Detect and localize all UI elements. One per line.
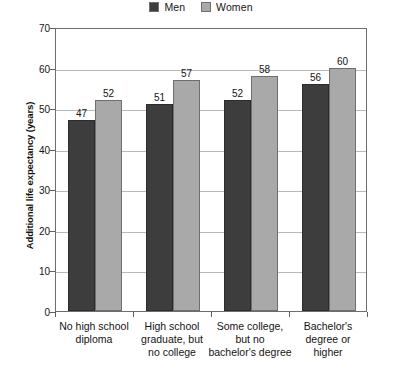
x-category-label: High schoolgraduate, butno college <box>127 320 217 359</box>
bar-value-label: 57 <box>167 69 207 79</box>
x-category-line: degree or <box>283 333 373 346</box>
x-tick-mark <box>367 312 368 317</box>
bar-men-2 <box>224 100 251 311</box>
grouped-bar-chart: Men Women Additional life expectancy (ye… <box>0 0 402 371</box>
legend-entry-men: Men <box>149 2 185 13</box>
y-tick-label: 20 <box>20 225 50 236</box>
legend-swatch-women <box>201 2 211 12</box>
legend-label-men: Men <box>164 2 185 13</box>
x-tick-mark <box>289 312 290 317</box>
x-category-line: graduate, but <box>127 333 217 346</box>
gridline <box>56 70 366 71</box>
x-tick-mark <box>211 312 212 317</box>
x-category-line: but no <box>205 333 295 346</box>
x-category-line: Some college, <box>205 320 295 333</box>
y-tick-label: 30 <box>20 185 50 196</box>
bar-value-label: 60 <box>323 57 363 67</box>
y-tick-label: 40 <box>20 144 50 155</box>
bar-men-3 <box>302 84 329 311</box>
y-tick-label: 10 <box>20 266 50 277</box>
legend-label-women: Women <box>216 2 253 13</box>
bar-women-0 <box>95 100 122 311</box>
x-category-line: No high school <box>49 320 139 333</box>
bar-men-0 <box>68 120 95 311</box>
x-category-line: Bachelor's <box>283 320 373 333</box>
y-tick-label: 0 <box>20 307 50 318</box>
y-axis-title: Additional life expectancy (years) <box>24 51 35 301</box>
x-category-line: diploma <box>49 333 139 346</box>
x-category-line: High school <box>127 320 217 333</box>
bar-value-label: 58 <box>245 65 285 75</box>
x-category-label: Some college,but nobachelor's degree <box>205 320 295 359</box>
y-tick-label: 50 <box>20 104 50 115</box>
bar-women-2 <box>251 76 278 311</box>
x-tick-mark <box>55 312 56 317</box>
chart-legend: Men Women <box>0 2 402 13</box>
plot-area: 4752515752585660 <box>55 28 367 312</box>
bar-women-3 <box>329 68 356 311</box>
x-tick-mark <box>133 312 134 317</box>
legend-entry-women: Women <box>201 2 253 13</box>
x-category-line: bachelor's degree <box>205 346 295 359</box>
y-tick-label: 70 <box>20 23 50 34</box>
x-category-line: higher <box>283 346 373 359</box>
x-category-line: no college <box>127 346 217 359</box>
x-axis-categories: No high schooldiplomaHigh schoolgraduate… <box>55 320 367 368</box>
x-category-label: No high schooldiploma <box>49 320 139 346</box>
y-tick-label: 60 <box>20 63 50 74</box>
x-category-label: Bachelor'sdegree orhigher <box>283 320 373 359</box>
bar-value-label: 52 <box>89 89 129 99</box>
bar-women-1 <box>173 80 200 311</box>
legend-swatch-men <box>149 2 159 12</box>
bar-men-1 <box>146 104 173 311</box>
